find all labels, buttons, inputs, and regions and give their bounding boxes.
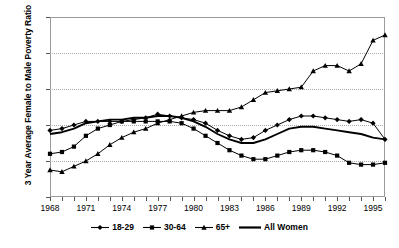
x-tick-mark xyxy=(385,197,386,201)
data-point xyxy=(239,104,244,109)
data-point xyxy=(311,113,316,118)
x-tick-mark xyxy=(62,197,63,201)
x-tick-label: 1995 xyxy=(364,203,383,213)
data-point xyxy=(107,142,112,147)
x-tick-label: 1986 xyxy=(256,203,275,213)
legend-marker-none-icon xyxy=(239,223,261,232)
data-point xyxy=(347,119,352,124)
x-tick-label: 1977 xyxy=(148,203,167,213)
data-point xyxy=(47,167,52,172)
data-point xyxy=(311,148,315,152)
chart-legend: 18-2930-6465+All Women xyxy=(0,222,399,232)
x-tick-mark xyxy=(218,197,219,201)
x-tick-mark xyxy=(241,197,242,201)
data-point xyxy=(239,137,244,142)
x-tick-mark xyxy=(277,197,278,201)
x-tick-label: 1980 xyxy=(184,203,203,213)
x-tick-mark xyxy=(86,197,87,201)
data-point xyxy=(263,128,268,133)
x-tick-mark xyxy=(373,197,374,201)
data-point xyxy=(335,117,340,122)
data-point xyxy=(84,134,88,138)
data-point xyxy=(346,68,351,73)
x-tick-mark xyxy=(313,197,314,201)
x-tick-mark xyxy=(170,197,171,201)
x-tick-mark xyxy=(301,197,302,201)
legend-label: 65+ xyxy=(216,222,230,232)
data-point xyxy=(251,97,256,102)
data-point xyxy=(358,61,363,66)
x-tick-mark xyxy=(325,197,326,201)
legend-item-18-29[interactable]: 18-29 xyxy=(91,222,134,232)
data-point xyxy=(227,148,231,152)
data-point xyxy=(358,117,363,122)
x-tick-mark xyxy=(349,197,350,201)
data-point xyxy=(335,154,339,158)
legend-item-65-[interactable]: 65+ xyxy=(195,222,230,232)
data-point xyxy=(48,152,52,156)
data-point xyxy=(144,119,148,123)
legend-marker-diamond-icon xyxy=(91,223,109,232)
data-point xyxy=(323,115,328,120)
x-tick-mark xyxy=(206,197,207,201)
y-axis-title: 3 Year Average Female to Male Poverty Ra… xyxy=(23,0,33,190)
x-tick-mark xyxy=(74,197,75,201)
x-tick-mark xyxy=(265,197,266,201)
data-point xyxy=(275,154,279,158)
data-point xyxy=(251,157,255,161)
data-point xyxy=(143,126,148,131)
data-point xyxy=(71,164,76,169)
legend-item-all-women[interactable]: All Women xyxy=(239,222,308,232)
x-tick-mark xyxy=(98,197,99,201)
data-point xyxy=(311,68,316,73)
data-point xyxy=(59,126,64,131)
x-tick-mark xyxy=(229,197,230,201)
data-point xyxy=(371,163,375,167)
x-tick-label: 1971 xyxy=(76,203,95,213)
data-point xyxy=(299,113,304,118)
data-point xyxy=(382,32,387,37)
data-point xyxy=(299,148,303,152)
data-point xyxy=(263,157,267,161)
x-tick-mark xyxy=(146,197,147,201)
data-point xyxy=(47,128,52,133)
series-30-64 xyxy=(48,119,387,166)
x-tick-mark xyxy=(122,197,123,201)
data-point xyxy=(72,145,76,149)
x-tick-mark xyxy=(337,197,338,201)
plot-area: 1.21.41.61.822.2 19681971197419771980198… xyxy=(50,17,385,197)
data-point xyxy=(191,127,195,131)
data-point xyxy=(359,163,363,167)
x-tick-mark xyxy=(361,197,362,201)
data-point xyxy=(203,134,207,138)
data-point xyxy=(275,122,280,127)
series-65- xyxy=(47,32,387,174)
data-point xyxy=(383,161,387,165)
data-point xyxy=(60,150,64,154)
x-tick-mark xyxy=(110,197,111,201)
legend-marker-triangle-icon xyxy=(195,223,213,232)
data-point xyxy=(132,119,136,123)
legend-item-30-64[interactable]: 30-64 xyxy=(143,222,186,232)
data-point xyxy=(251,135,256,140)
data-point xyxy=(215,141,219,145)
data-point xyxy=(108,123,112,127)
x-tick-mark xyxy=(253,197,254,201)
x-tick-label: 1974 xyxy=(112,203,131,213)
x-tick-label: 1983 xyxy=(220,203,239,213)
series-layer xyxy=(50,17,385,197)
x-tick-label: 1992 xyxy=(328,203,347,213)
legend-label: 30-64 xyxy=(164,222,186,232)
x-tick-mark xyxy=(134,197,135,201)
data-point xyxy=(323,150,327,154)
data-point xyxy=(119,135,124,140)
data-point xyxy=(180,121,184,125)
series-line xyxy=(50,35,385,172)
legend-marker-square-icon xyxy=(143,223,161,232)
x-tick-mark xyxy=(50,197,51,201)
legend-label: All Women xyxy=(264,222,308,232)
data-point xyxy=(96,127,100,131)
data-point xyxy=(239,154,243,158)
x-tick-mark xyxy=(158,197,159,201)
x-tick-mark xyxy=(182,197,183,201)
